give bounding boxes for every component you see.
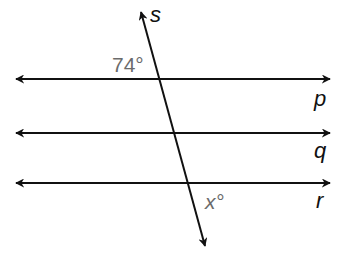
transversal-s [141,12,205,246]
label-p: p [314,88,326,110]
angle-74-label: 74° [112,54,144,75]
label-r: r [316,190,323,212]
label-s: s [150,4,161,26]
diagram-canvas: s 74° p q x° r [0,0,337,263]
geometry-figure [0,0,337,263]
label-q: q [314,140,326,162]
angle-x-label: x° [205,191,224,212]
